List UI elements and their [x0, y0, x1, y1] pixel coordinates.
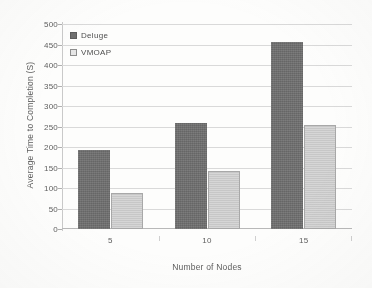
y-axis-tick-labels: 500450400350300250200150100500: [30, 24, 58, 229]
legend-label-deluge: Deluge: [81, 31, 108, 40]
legend-swatch-outlined-light-square-icon: [70, 49, 77, 56]
chart-legend: Deluge VMOAP: [70, 28, 152, 62]
bar-vmoap-5: [111, 193, 143, 229]
legend-item-deluge: Deluge: [70, 28, 152, 43]
bar-deluge-15: [271, 42, 303, 229]
bar-deluge-10: [175, 123, 207, 229]
y-axis-tick-label: 50: [30, 204, 58, 213]
y-axis-tick-label: 150: [30, 163, 58, 172]
y-axis-tick-label: 350: [30, 81, 58, 90]
y-axis-tick-label: 450: [30, 40, 58, 49]
legend-swatch-filled-dark-square-icon: [70, 32, 77, 39]
legend-item-vmoap: VMOAP: [70, 45, 152, 60]
y-axis-tick-label: 0: [30, 225, 58, 234]
x-axis-category-separator: [159, 236, 160, 241]
x-axis-title: Number of Nodes: [62, 262, 352, 272]
y-axis-tickmark: [58, 229, 62, 230]
bar-vmoap-15: [304, 125, 336, 229]
x-axis-tick-label: 5: [108, 236, 113, 245]
x-axis-tick-label: 15: [299, 236, 308, 245]
x-axis-category-separator: [351, 236, 352, 241]
bar-deluge-5: [78, 150, 110, 229]
y-axis-tick-label: 100: [30, 184, 58, 193]
y-axis-tick-label: 250: [30, 122, 58, 131]
y-axis-tick-label: 500: [30, 20, 58, 29]
y-axis-tick-label: 200: [30, 143, 58, 152]
x-axis-tick-labels: 51015: [62, 236, 352, 250]
bar-chart-figure: Average Time to Completion (S) 500450400…: [0, 0, 372, 288]
legend-label-vmoap: VMOAP: [81, 48, 111, 57]
y-axis-tick-label: 400: [30, 61, 58, 70]
x-axis-category-separator: [255, 236, 256, 241]
x-axis-tick-label: 10: [202, 236, 211, 245]
y-axis-tick-label: 300: [30, 102, 58, 111]
bar-vmoap-10: [208, 171, 240, 229]
